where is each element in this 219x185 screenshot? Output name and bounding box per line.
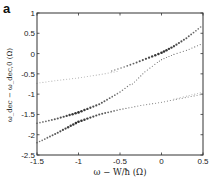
data-points <box>36 26 201 143</box>
y-tick-label: 0.5 <box>24 29 36 38</box>
x-tick-label: 0 <box>159 157 164 166</box>
x-tick-label: -1 <box>75 157 83 166</box>
plot-frame <box>37 13 203 155</box>
y-tick-label: 0 <box>31 50 36 59</box>
y-tick-label: -2 <box>28 131 36 140</box>
y-tick-label: -2.5 <box>21 151 35 160</box>
x-tick-label: -0.5 <box>113 157 127 166</box>
y-axis-ticks: 10.50-0.5-1-1.5-2-2.5 <box>21 9 203 160</box>
y-tick-label: -0.5 <box>21 70 35 79</box>
y-tick-label: -1 <box>28 90 36 99</box>
scatter-chart: -1.5-1-0.500.5 10.50-0.5-1-1.5-2-2.5 ω −… <box>0 0 219 185</box>
y-tick-label: 1 <box>31 9 36 18</box>
x-axis-ticks: -1.5-1-0.500.5 <box>30 13 209 166</box>
y-tick-label: -1.5 <box>21 110 35 119</box>
x-tick-label: 0.5 <box>197 157 209 166</box>
x-axis-label: ω − W/ħ (Ω) <box>94 167 147 177</box>
y-axis-label: ω_dec − ω_dec,0 (Ω) <box>6 48 14 122</box>
